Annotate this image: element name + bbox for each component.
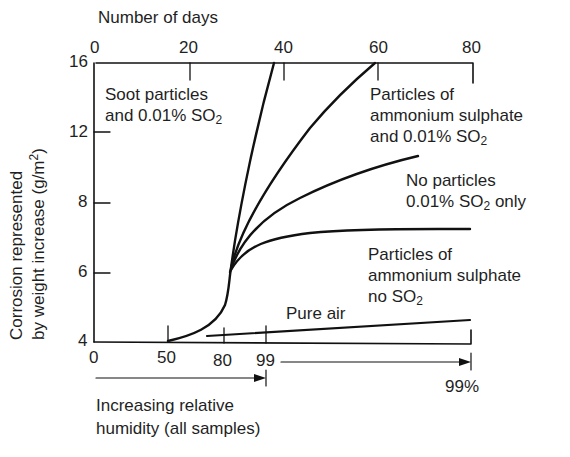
y-tick-12: 12	[69, 122, 88, 142]
bottom-tick-99: 99	[256, 351, 275, 371]
y-tick-16: 16	[69, 52, 88, 72]
y-tick-6: 6	[78, 262, 87, 282]
y-axis-label: Corrosion represented by weight increase…	[6, 148, 50, 340]
bottom-axis-label-line2: humidity (all samples)	[96, 418, 260, 439]
annotation-ammonium-no-so2: Particles of ammonium sulphate no SO2	[368, 244, 521, 307]
bottom-tick-0: 0	[89, 348, 98, 368]
bottom-tick-80: 80	[213, 351, 232, 371]
top-tick-0: 0	[90, 38, 99, 58]
curve-ammonium-so2	[231, 63, 375, 268]
top-tick-80: 80	[462, 38, 481, 58]
bottom-axis-label-line1: Increasing relative	[96, 395, 234, 416]
bottom-end-99-percent: 99%	[445, 377, 479, 397]
y-axis-label-line2: by weight increase (g/m2)	[28, 148, 50, 340]
top-tick-60: 60	[369, 38, 388, 58]
y-tick-8: 8	[78, 192, 87, 212]
annotation-pure-air: Pure air	[286, 303, 346, 324]
annotation-ammonium-so2: Particles of ammonium sulphate and 0.01%…	[370, 84, 523, 147]
annotation-no-particles: No particles 0.01% SO2 only	[406, 170, 526, 212]
annotation-soot: Soot particles and 0.01% SO2	[105, 84, 222, 126]
top-axis-title: Number of days	[98, 7, 218, 28]
y-axis-label-line1: Corrosion represented	[6, 148, 28, 340]
top-tick-40: 40	[274, 38, 293, 58]
bottom-tick-50: 50	[157, 348, 176, 368]
top-tick-20: 20	[179, 38, 198, 58]
y-tick-4: 4	[78, 331, 87, 351]
